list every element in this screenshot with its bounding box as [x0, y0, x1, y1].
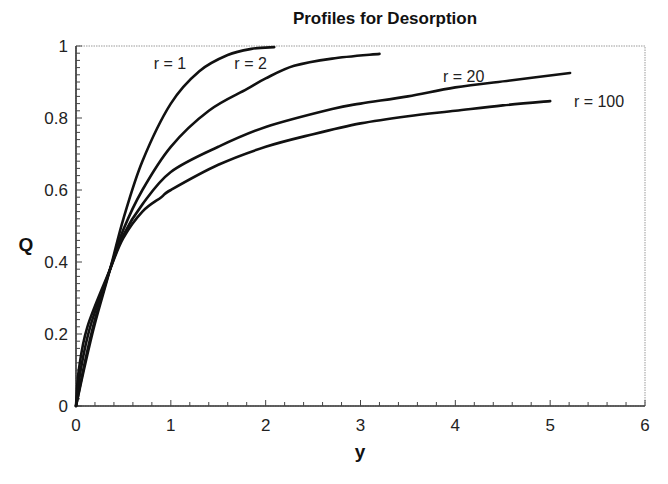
curve-label: r = 20 — [443, 68, 484, 85]
y-tick-label: 1 — [59, 37, 68, 56]
y-tick-label: 0.8 — [44, 109, 68, 128]
x-tick-label: 4 — [451, 416, 460, 435]
y-tick-label: 0 — [59, 397, 68, 416]
curve-label: r = 100 — [574, 93, 624, 110]
y-tick-label: 0.6 — [44, 181, 68, 200]
x-axis-label: y — [355, 441, 366, 462]
chart-title: Profiles for Desorption — [293, 9, 477, 28]
y-axis-label: Q — [19, 234, 34, 255]
y-tick-label: 0.2 — [44, 325, 68, 344]
chart: Profiles for Desorption 012345600.20.40.… — [0, 0, 668, 484]
ticks — [76, 46, 645, 406]
curve-r-20 — [76, 73, 570, 406]
tick-labels: 012345600.20.40.60.81 — [44, 37, 649, 435]
curve-r-1 — [76, 47, 274, 406]
x-tick-label: 2 — [261, 416, 270, 435]
x-tick-label: 6 — [640, 416, 649, 435]
plot-frame — [76, 46, 645, 406]
x-tick-label: 1 — [166, 416, 175, 435]
curves — [76, 47, 570, 406]
x-tick-label: 0 — [71, 416, 80, 435]
axes — [76, 46, 645, 406]
curve-label: r = 1 — [154, 55, 187, 72]
curve-label: r = 2 — [234, 55, 267, 72]
y-tick-label: 0.4 — [44, 253, 68, 272]
x-tick-label: 5 — [545, 416, 554, 435]
x-tick-label: 3 — [356, 416, 365, 435]
